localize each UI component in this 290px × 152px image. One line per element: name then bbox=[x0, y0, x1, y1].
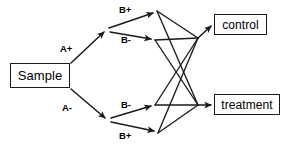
edge-sample-to-a-minus bbox=[71, 89, 105, 118]
diagram-canvas: Sample control treatment A+ A- B+ B- B- … bbox=[0, 0, 290, 152]
edge-a-minus-to-b-minus bbox=[111, 106, 151, 118]
edge-a-minus-to-b-plus bbox=[111, 122, 154, 131]
edge-label-b-minus-top: B- bbox=[121, 35, 131, 45]
node-box-sample[interactable]: Sample bbox=[10, 63, 70, 88]
sample-label: Sample bbox=[18, 69, 63, 82]
control-label: control bbox=[222, 19, 259, 31]
edge-sample-to-a-plus bbox=[71, 32, 104, 63]
edge-label-a-minus: A- bbox=[62, 103, 72, 113]
edge-b-minus-top-to-join-top bbox=[155, 38, 198, 40]
edge-join-top-to-control bbox=[198, 26, 211, 38]
node-box-control[interactable]: control bbox=[214, 14, 267, 35]
edge-a-plus-to-b-plus bbox=[109, 13, 153, 28]
edge-label-a-plus: A+ bbox=[60, 44, 72, 54]
treatment-label: treatment bbox=[221, 99, 273, 111]
edge-label-b-plus-bottom: B+ bbox=[119, 131, 131, 141]
edge-label-b-plus-top: B+ bbox=[119, 5, 131, 15]
node-box-treatment[interactable]: treatment bbox=[214, 94, 280, 115]
edge-label-b-minus-bottom: B- bbox=[121, 100, 131, 110]
